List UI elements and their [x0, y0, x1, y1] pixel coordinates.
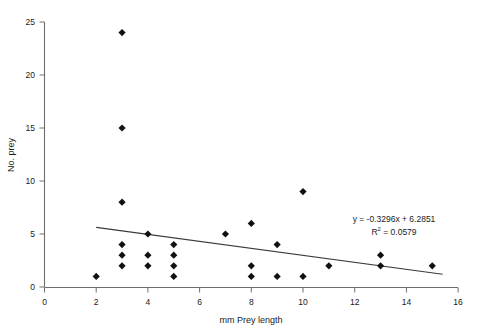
data-point	[118, 252, 125, 259]
data-point	[93, 273, 100, 280]
data-point	[377, 262, 384, 269]
regression-equation-label: y = -0.3296x + 6.2851	[353, 214, 436, 224]
data-point	[170, 262, 177, 269]
data-point	[118, 241, 125, 248]
data-point	[299, 188, 306, 195]
data-point	[248, 262, 255, 269]
y-axis-title: No. prey	[6, 137, 16, 172]
r-squared-value: = 0.0579	[381, 227, 417, 237]
data-point	[170, 252, 177, 259]
x-axis-title: mm Prey length	[219, 315, 282, 325]
x-tick-label: 6	[197, 297, 202, 307]
data-point	[118, 262, 125, 269]
data-point	[118, 199, 125, 206]
y-axis-ticks	[40, 22, 45, 287]
y-tick-label: 0	[30, 282, 35, 292]
data-point	[144, 262, 151, 269]
x-axis-ticks	[45, 288, 459, 293]
data-point	[222, 230, 229, 237]
x-tick-label: 10	[298, 297, 308, 307]
y-tick-label: 5	[30, 229, 35, 239]
y-tick-label: 20	[26, 70, 36, 80]
x-tick-label: 12	[350, 297, 360, 307]
r-squared-label: R2 = 0.0579	[371, 226, 416, 237]
data-point	[144, 230, 151, 237]
data-point-group	[93, 29, 436, 280]
data-point	[299, 273, 306, 280]
data-point	[144, 252, 151, 259]
x-tick-label: 16	[453, 297, 463, 307]
data-point	[377, 252, 384, 259]
data-point	[248, 273, 255, 280]
x-tick-label: 4	[146, 297, 151, 307]
y-tick-label: 10	[26, 176, 36, 186]
x-tick-label: 14	[402, 297, 412, 307]
data-point	[118, 29, 125, 36]
data-point	[325, 262, 332, 269]
data-point	[248, 220, 255, 227]
data-point	[118, 124, 125, 131]
y-axis-tick-labels: 0 5 10 15 20 25	[26, 17, 36, 292]
data-point	[274, 273, 281, 280]
data-point	[429, 262, 436, 269]
x-tick-label: 0	[42, 297, 47, 307]
data-point	[170, 241, 177, 248]
y-tick-label: 15	[26, 123, 36, 133]
data-point	[274, 241, 281, 248]
scatter-plot-figure: 0 5 10 15 20 25 0 2 4 6 8 10 12 14 16 mm…	[0, 0, 477, 336]
x-axis-tick-labels: 0 2 4 6 8 10 12 14 16	[42, 297, 463, 307]
data-point	[170, 273, 177, 280]
chart-canvas: 0 5 10 15 20 25 0 2 4 6 8 10 12 14 16 mm…	[0, 0, 477, 336]
x-tick-label: 2	[94, 297, 99, 307]
x-tick-label: 8	[249, 297, 254, 307]
y-tick-label: 25	[26, 17, 36, 27]
